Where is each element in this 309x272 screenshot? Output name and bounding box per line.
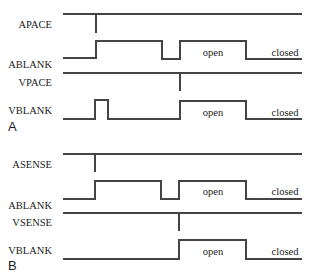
signal-label: VBLANK xyxy=(8,105,52,116)
waveform xyxy=(63,213,302,231)
state-label-open: open xyxy=(203,246,224,257)
state-label-closed: closed xyxy=(272,47,300,58)
waveform xyxy=(63,73,302,91)
signal-vpace: VPACE xyxy=(19,73,302,91)
state-label-open: open xyxy=(203,107,224,118)
signal-label: ASENSE xyxy=(12,159,52,170)
waveform xyxy=(63,14,302,33)
waveform xyxy=(63,41,302,59)
signal-label: VPACE xyxy=(19,77,52,88)
panel-label: B xyxy=(8,258,17,272)
signal-label: VBLANK xyxy=(8,245,52,256)
panel-a: APACEABLANKopenclosedVPACEVBLANKopenclos… xyxy=(8,14,302,134)
waveform xyxy=(63,154,302,172)
signal-apace: APACE xyxy=(19,14,302,33)
waveform xyxy=(63,181,302,199)
signal-label: ABLANK xyxy=(8,59,52,70)
panel-label: A xyxy=(8,119,17,134)
state-label-open: open xyxy=(203,47,224,58)
timing-diagram: APACEABLANKopenclosedVPACEVBLANKopenclos… xyxy=(0,0,309,272)
signal-ablank: ABLANKopenclosed xyxy=(8,181,302,211)
signal-asense: ASENSE xyxy=(12,154,302,172)
state-label-open: open xyxy=(203,186,224,197)
signal-label: VSENSE xyxy=(12,217,52,228)
state-label-closed: closed xyxy=(272,246,300,257)
signal-vblank: VBLANKopenclosed xyxy=(8,240,302,259)
panel-b: ASENSEABLANKopenclosedVSENSEVBLANKopencl… xyxy=(8,154,302,272)
signal-ablank: ABLANKopenclosed xyxy=(8,41,302,70)
signal-vsense: VSENSE xyxy=(12,213,302,231)
state-label-closed: closed xyxy=(272,107,300,118)
state-label-closed: closed xyxy=(272,186,300,197)
signal-vblank: VBLANKopenclosed xyxy=(8,100,302,119)
waveform xyxy=(63,100,302,119)
signal-label: ABLANK xyxy=(8,200,52,211)
signal-label: APACE xyxy=(19,19,52,30)
waveform xyxy=(63,240,302,259)
